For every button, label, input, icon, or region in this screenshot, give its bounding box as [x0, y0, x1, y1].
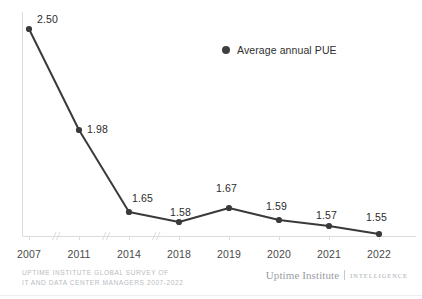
- data-point-2020: [276, 217, 282, 223]
- brand-name-text: Uptime Institute: [266, 269, 339, 281]
- data-point-2021: [326, 223, 332, 229]
- data-point-2014: [126, 209, 132, 215]
- data-label-2019: 1.67: [216, 182, 237, 194]
- x-tick-label-2020: 2020: [256, 248, 302, 260]
- x-tick-label-2022: 2022: [356, 248, 402, 260]
- figure-footer: Uptime Institute Global Survey of IT and…: [0, 268, 422, 299]
- x-tick-label-2018: 2018: [156, 248, 202, 260]
- legend-marker-icon: [222, 46, 230, 54]
- data-point-2018: [176, 219, 182, 225]
- data-point-2022: [376, 231, 382, 237]
- data-label-2014: 1.65: [132, 192, 153, 204]
- data-label-2011: 1.98: [87, 123, 108, 135]
- data-point-2019: [226, 205, 232, 211]
- brand-divider: [344, 270, 345, 280]
- source-caption: Uptime Institute Global Survey of IT and…: [22, 268, 183, 287]
- plot-area: Average annual PUE: [0, 8, 422, 240]
- data-point-2007: [26, 26, 32, 32]
- chart-legend: Average annual PUE: [222, 44, 337, 56]
- source-caption-line-2: IT and Data Center Managers 2007-2022: [22, 278, 183, 288]
- x-tick-label-2011: 2011: [56, 248, 102, 260]
- clipped-title-remnant: [0, 0, 422, 2]
- pue-line-chart-figure: Average annual PUE 2.50 1.98 1.65 1.58 1…: [0, 0, 422, 299]
- x-tick-label-2007: 2007: [6, 248, 52, 260]
- legend-item-label: Average annual PUE: [237, 44, 337, 56]
- data-label-2021: 1.57: [316, 209, 337, 221]
- x-tick-label-2021: 2021: [306, 248, 352, 260]
- data-point-2011: [76, 127, 82, 133]
- data-label-2020: 1.59: [266, 200, 287, 212]
- uptime-institute-logo: Uptime Institute Intelligence: [266, 269, 408, 281]
- data-label-2022: 1.55: [366, 211, 387, 223]
- x-axis-ticks: [30, 237, 380, 241]
- x-tick-label-2019: 2019: [206, 248, 252, 260]
- brand-sub-text: Intelligence: [350, 272, 408, 279]
- data-label-2018: 1.58: [170, 206, 191, 218]
- source-caption-line-1: Uptime Institute Global Survey of: [22, 268, 183, 278]
- footer-divider-rule: [0, 295, 422, 296]
- chart-canvas: [0, 8, 422, 240]
- x-tick-label-2014: 2014: [106, 248, 152, 260]
- data-label-2007: 2.50: [37, 13, 58, 25]
- pue-data-markers: [26, 26, 382, 237]
